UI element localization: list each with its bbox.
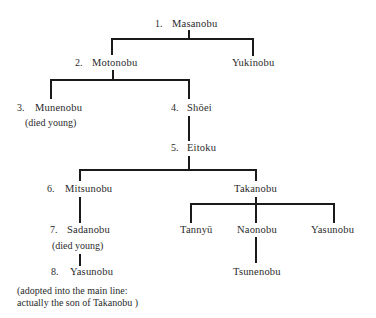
connector-line [255, 237, 257, 263]
connector-line [79, 169, 81, 181]
node-tannyu: Tannyū [180, 224, 213, 236]
connector-line [255, 169, 257, 181]
node-note: actually the son of Takanobu ) [17, 297, 138, 309]
node-mitsunobu: Mitsunobu [65, 183, 112, 195]
node-number: 3. [17, 102, 25, 114]
node-masanobu: Masanobu [172, 18, 217, 30]
connector-line [111, 38, 113, 55]
connector-line [79, 254, 81, 266]
connector-line [50, 79, 52, 99]
node-shoei: Shōei [187, 102, 212, 114]
connector-line [188, 79, 190, 99]
node-number: 8. [51, 266, 59, 278]
node-number: 5. [171, 142, 179, 154]
node-takanobu: Takanobu [234, 183, 277, 195]
node-sadanobu: Sadanobu [67, 224, 110, 236]
connector-line [255, 197, 257, 223]
connector-line [190, 203, 192, 223]
connector-line [79, 169, 257, 171]
node-naonobu: Naonobu [237, 224, 277, 236]
family-tree-diagram: 1. Masanobu 2. Motonobu Yukinobu 3. Mune… [0, 0, 376, 318]
connector-line [111, 38, 254, 40]
node-yasunobu-main: Yasunobu [70, 266, 113, 278]
node-number: 6. [47, 183, 55, 195]
node-number: 1. [155, 18, 163, 30]
node-number: 4. [171, 102, 179, 114]
node-munenobu: Munenobu [35, 102, 82, 114]
node-note: (died young) [52, 240, 103, 252]
connector-line [188, 156, 190, 170]
connector-line [79, 197, 81, 223]
node-yukinobu: Yukinobu [232, 57, 274, 69]
node-motonobu: Motonobu [92, 57, 137, 69]
node-tsunenobu: Tsunenobu [233, 266, 281, 278]
node-note: (died young) [25, 117, 76, 129]
connector-line [252, 38, 254, 56]
connector-line [190, 203, 335, 205]
connector-line [188, 116, 190, 141]
connector-line [50, 79, 190, 81]
node-number: 2. [75, 57, 83, 69]
node-eitoku: Eitoku [187, 142, 216, 154]
connector-line [333, 203, 335, 223]
node-number: 7. [50, 224, 58, 236]
node-yasunobu: Yasunobu [311, 224, 354, 236]
node-note: (adopted into the main line: [17, 285, 128, 297]
